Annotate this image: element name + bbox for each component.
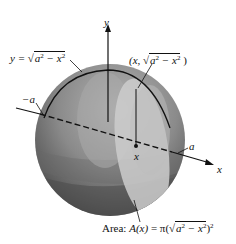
y-axis-label: y <box>104 16 109 28</box>
x-point <box>134 144 138 148</box>
sphere <box>35 64 185 221</box>
leader-curve <box>70 60 82 72</box>
x-point-label: x <box>134 150 139 162</box>
neg-a-label: −a <box>22 93 35 105</box>
sphere-diagram <box>0 0 236 244</box>
x-axis-arrow <box>205 159 214 165</box>
point-label: (x, √a2 − x2 ) <box>129 54 187 66</box>
x-axis-outer-left <box>16 108 40 114</box>
x-axis-label: x <box>217 163 222 175</box>
area-formula: Area: A(x) = π(√a2 − x2)2 <box>102 222 214 234</box>
pos-a-label: a <box>189 140 195 152</box>
curve-equation: y = √a2 − x2 <box>10 52 65 64</box>
